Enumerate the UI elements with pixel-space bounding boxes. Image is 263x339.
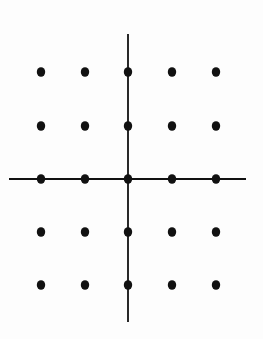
lattice-point — [81, 67, 89, 77]
lattice-point — [37, 121, 45, 131]
lattice-figure — [0, 0, 263, 339]
lattice-point — [212, 67, 220, 77]
lattice-point — [212, 280, 220, 290]
lattice-point — [37, 67, 45, 77]
lattice-point — [124, 121, 132, 131]
lattice-point — [168, 227, 176, 237]
lattice-point — [81, 121, 89, 131]
lattice-point — [81, 227, 89, 237]
lattice-point — [168, 121, 176, 131]
lattice-point — [212, 227, 220, 237]
lattice-point — [124, 227, 132, 237]
lattice-point — [212, 121, 220, 131]
lattice-point — [37, 174, 45, 184]
lattice-point — [168, 280, 176, 290]
lattice-point — [81, 280, 89, 290]
lattice-point — [168, 67, 176, 77]
lattice-point — [37, 280, 45, 290]
lattice-point — [168, 174, 176, 184]
lattice-point — [124, 174, 132, 184]
lattice-diagram — [0, 0, 263, 339]
lattice-point — [124, 67, 132, 77]
lattice-point — [81, 174, 89, 184]
lattice-point — [37, 227, 45, 237]
lattice-point — [124, 280, 132, 290]
lattice-point — [212, 174, 220, 184]
